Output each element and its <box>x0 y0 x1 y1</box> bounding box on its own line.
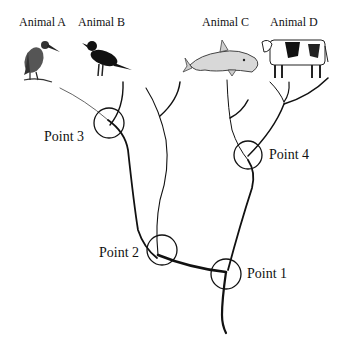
tree-branches <box>0 0 345 351</box>
dolphin-icon <box>183 40 258 76</box>
phylogenetic-tree-diagram: Animal A Animal B Animal C Animal D Poin… <box>0 0 345 351</box>
crow-bird-icon <box>82 41 132 76</box>
point-3-label: Point 3 <box>44 129 84 145</box>
animal-b-label: Animal B <box>78 15 125 30</box>
cow-icon <box>262 40 328 78</box>
point-4-label: Point 4 <box>269 147 309 163</box>
animal-d-label: Animal D <box>270 15 318 30</box>
point-2-circle <box>147 235 177 265</box>
animal-a-label: Animal A <box>19 15 66 30</box>
point-3-circle <box>94 108 124 138</box>
point-2-label: Point 2 <box>99 245 139 261</box>
point-1-label: Point 1 <box>247 266 287 282</box>
heron-bird-icon <box>21 41 60 82</box>
animal-c-label: Animal C <box>202 15 249 30</box>
